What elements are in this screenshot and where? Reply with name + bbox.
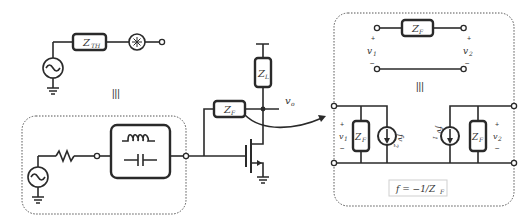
lc-tank-box xyxy=(111,125,170,178)
v1-label: v xyxy=(367,46,372,56)
fv2-label: fv xyxy=(396,133,405,142)
port1-top-terminal xyxy=(374,25,379,30)
ground-icon xyxy=(32,197,44,203)
output-terminal xyxy=(159,39,164,44)
v1-plus: + xyxy=(371,35,375,42)
v2-label: v xyxy=(463,46,468,56)
circuit-diagram: Z TH ||| xyxy=(0,0,526,221)
shunt-v1-plus: + xyxy=(340,121,344,128)
current-source-icon xyxy=(378,127,396,145)
zf-subscript: F xyxy=(230,109,236,116)
equivalence-symbol-left: ||| xyxy=(112,88,120,99)
vo-subscript: o xyxy=(291,100,295,107)
fv2-subscript: 2 xyxy=(393,143,400,148)
two-port-equivalent: Z F + + v 1 v 2 − − ||| Z F fv 2 xyxy=(331,13,516,206)
v2-subscript: 2 xyxy=(468,50,473,57)
noise-source-icon xyxy=(129,34,145,50)
resistor-icon xyxy=(56,151,74,161)
shunt-port2-top xyxy=(511,103,516,108)
ground-icon xyxy=(47,88,59,94)
network-input-node xyxy=(94,153,99,158)
zf-shunt-left-subscript: F xyxy=(361,136,367,143)
formula-text: f = −1/Z xyxy=(395,184,436,194)
v1-minus: − xyxy=(370,59,375,68)
shunt-port1-bottom xyxy=(331,160,336,165)
zth-label: Z xyxy=(82,37,91,48)
formula-subscript: F xyxy=(439,188,445,195)
zth-subscript: TH xyxy=(91,42,101,49)
ac-source-icon xyxy=(43,58,63,78)
shunt-port2-bottom xyxy=(511,160,516,165)
zf-series-subscript: F xyxy=(418,28,424,35)
zf-shunt-right-subscript: F xyxy=(478,136,484,143)
ground-icon xyxy=(257,177,269,183)
network-output-node xyxy=(183,153,188,158)
port2-top-terminal xyxy=(461,25,466,30)
zf-shunt-right-label: Z xyxy=(471,132,479,142)
shunt-v2-minus: − xyxy=(495,144,500,153)
zl-subscript: L xyxy=(264,73,269,80)
v1-subscript: 1 xyxy=(373,50,377,57)
amplifier-circuit: Z F Z L v o xyxy=(189,44,326,183)
shunt-v2-plus: + xyxy=(495,121,499,128)
v2-plus: + xyxy=(467,35,471,42)
thevenin-source-circuit: Z TH ||| xyxy=(43,34,165,99)
shunt-v2-subscript: 2 xyxy=(497,135,502,142)
port1-bottom-terminal xyxy=(374,66,379,71)
transformation-arrow xyxy=(245,115,322,127)
fv1-label: fv xyxy=(435,125,444,134)
equivalence-symbol-right: ||| xyxy=(416,81,424,92)
output-node xyxy=(261,107,266,112)
shunt-port1-top xyxy=(331,103,336,108)
shunt-v1-subscript: 1 xyxy=(344,135,348,142)
matching-network xyxy=(22,116,189,214)
shunt-v1-minus: − xyxy=(340,144,345,153)
zf-shunt-left-label: Z xyxy=(354,132,362,142)
port2-bottom-terminal xyxy=(461,66,466,71)
ac-source-icon xyxy=(28,167,48,187)
fv1-subscript: 1 xyxy=(432,136,439,140)
